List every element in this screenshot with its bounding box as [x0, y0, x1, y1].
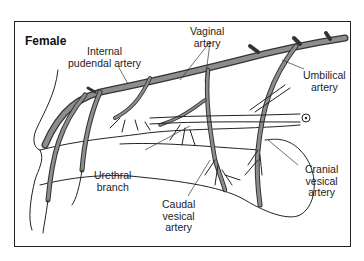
label-caudal-vesical-artery: Caudal vesical artery: [162, 199, 195, 234]
figure-title: Female: [25, 34, 66, 48]
label-vaginal-artery: Vaginal artery: [190, 26, 224, 49]
label-cranial-vesical-artery: Cranial vesical artery: [305, 164, 338, 199]
label-urethral-branch: Urethral branch: [94, 170, 131, 193]
label-umbilical-artery: Umbilical artery: [303, 70, 346, 93]
internal-pudendal-artery: [43, 88, 100, 233]
label-internal-pudendal-artery: Internal pudendal artery: [68, 46, 141, 69]
